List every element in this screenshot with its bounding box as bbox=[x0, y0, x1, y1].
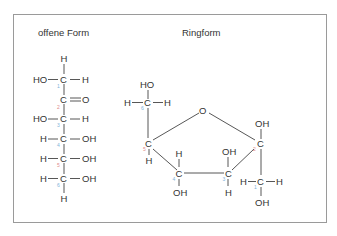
open-c1-num: 1 bbox=[57, 83, 60, 89]
ring-c5-atom: C bbox=[145, 138, 152, 149]
open-c6-right: OH bbox=[82, 173, 96, 184]
open-c2-right: O bbox=[82, 94, 89, 105]
ring-c2-atom: C bbox=[257, 138, 264, 149]
ring-c6-atom: C bbox=[144, 97, 151, 108]
ring-c6-left: H bbox=[124, 97, 131, 108]
open-c3-atom: C bbox=[60, 113, 67, 124]
open-c4-right: OH bbox=[82, 133, 96, 144]
ring-c1-num: 1 bbox=[254, 184, 257, 190]
ring-c3-top: OH bbox=[222, 146, 236, 157]
ring-c2-top: OH bbox=[255, 118, 269, 129]
ring-c2-num: 2 bbox=[253, 146, 256, 152]
ring-o: O bbox=[199, 105, 206, 116]
open-c3-num: 3 bbox=[57, 122, 60, 128]
open-bottom-h: H bbox=[61, 193, 68, 204]
open-top-h: H bbox=[61, 53, 68, 64]
ring-c5-bottom: H bbox=[146, 155, 153, 166]
ring-c4-num: 4 bbox=[173, 176, 176, 182]
open-c5-left: H bbox=[40, 153, 47, 164]
open-c4-num: 4 bbox=[57, 142, 60, 148]
open-c5-atom: C bbox=[60, 153, 67, 164]
open-form-structure: H HO C 1 H C 2 O HO C 3 H H C 4 OH H C 5… bbox=[33, 53, 96, 204]
ring-c3-atom: C bbox=[225, 168, 232, 179]
open-c1-atom: C bbox=[60, 74, 67, 85]
open-c5-right: OH bbox=[82, 153, 96, 164]
open-c2-atom: C bbox=[60, 94, 67, 105]
ring-c4-bottom: OH bbox=[173, 187, 187, 198]
ring-c6-right: H bbox=[164, 97, 171, 108]
ring-c5-num: 5 bbox=[143, 146, 146, 152]
ring-c6-num: 6 bbox=[141, 105, 144, 111]
open-c3-right: H bbox=[82, 113, 89, 124]
ring-c1-atom: C bbox=[257, 176, 264, 187]
open-c5-num: 5 bbox=[57, 162, 60, 168]
open-c1-right: H bbox=[82, 74, 89, 85]
ring-form-structure: HO H C 6 H C 5 H O H C 4 OH OH C 3 H bbox=[124, 79, 283, 208]
open-c6-left: H bbox=[40, 173, 47, 184]
open-c6-atom: C bbox=[60, 173, 67, 184]
ring-c3-num: 3 bbox=[223, 176, 226, 182]
ring-c1-left: H bbox=[240, 176, 247, 187]
ring-c1-bottom: OH bbox=[255, 197, 269, 208]
ring-c3-bottom: H bbox=[225, 187, 232, 198]
ring-c1-right: H bbox=[276, 176, 283, 187]
fructose-structures: H HO C 1 H C 2 O HO C 3 H H C 4 OH H C 5… bbox=[0, 0, 337, 236]
ring-c4-top: H bbox=[176, 148, 183, 159]
open-c4-atom: C bbox=[60, 133, 67, 144]
open-c1-left: HO bbox=[33, 74, 47, 85]
open-c2-num: 2 bbox=[57, 104, 60, 110]
open-c3-left: HO bbox=[33, 113, 47, 124]
ring-c6-top: HO bbox=[140, 79, 154, 90]
open-c6-num: 6 bbox=[57, 182, 60, 188]
open-c4-left: H bbox=[40, 133, 47, 144]
ring-c4-atom: C bbox=[176, 168, 183, 179]
